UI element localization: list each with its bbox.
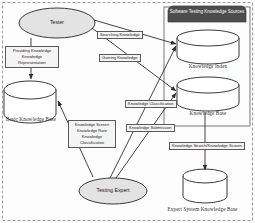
knowledge-sources-header: Software Testing Knowledge Sources (168, 6, 246, 23)
tester-label: Tester (27, 20, 87, 26)
testing-expert-label: Testing Expert (83, 188, 143, 194)
knowledge-classification-line: Knowledge Classification (71, 134, 113, 146)
knowledge-search-screen-label[interactable]: Knowledge Search/Knowledge Screen (169, 142, 245, 150)
knowledge-classification-label[interactable]: Knowledge Classification (125, 100, 177, 108)
knowledge-sources-header-label: Software Testing Knowledge Sources (168, 9, 246, 15)
providing-knowledge-label[interactable]: Providing Knowledge Knowledge Representa… (5, 46, 59, 68)
knowledge-index-cylinder[interactable] (177, 30, 239, 64)
providing-knowledge-line-2: Knowledge Representation (8, 54, 56, 66)
diagram-canvas: Software Testing Knowledge Sources Teste… (0, 0, 255, 223)
knowledge-rate-line: Knowledge Rate (71, 128, 113, 134)
knowledge-screen-rate-classification-label[interactable]: Knowledge Screen Knowledge Rate Knowledg… (68, 120, 116, 148)
gaining-knowledge-label[interactable]: Gaining Knowledge (99, 54, 141, 62)
expert-system-knowledge-base-cylinder[interactable] (183, 169, 227, 203)
knowledge-submission-label[interactable]: Knowledge Submission (126, 124, 175, 132)
knowledge-base-label: Knowledge Base (175, 111, 241, 117)
searching-knowledge-label[interactable]: Searching Knowledge (97, 31, 143, 39)
basic-knowledge-base-label: Basic Knowledge Base (0, 117, 62, 123)
knowledge-index-label: Knowledge Index (175, 64, 241, 70)
knowledge-base-cylinder[interactable] (177, 77, 239, 111)
expert-system-knowledge-base-label: Expert System Knowledge Base (150, 207, 255, 213)
